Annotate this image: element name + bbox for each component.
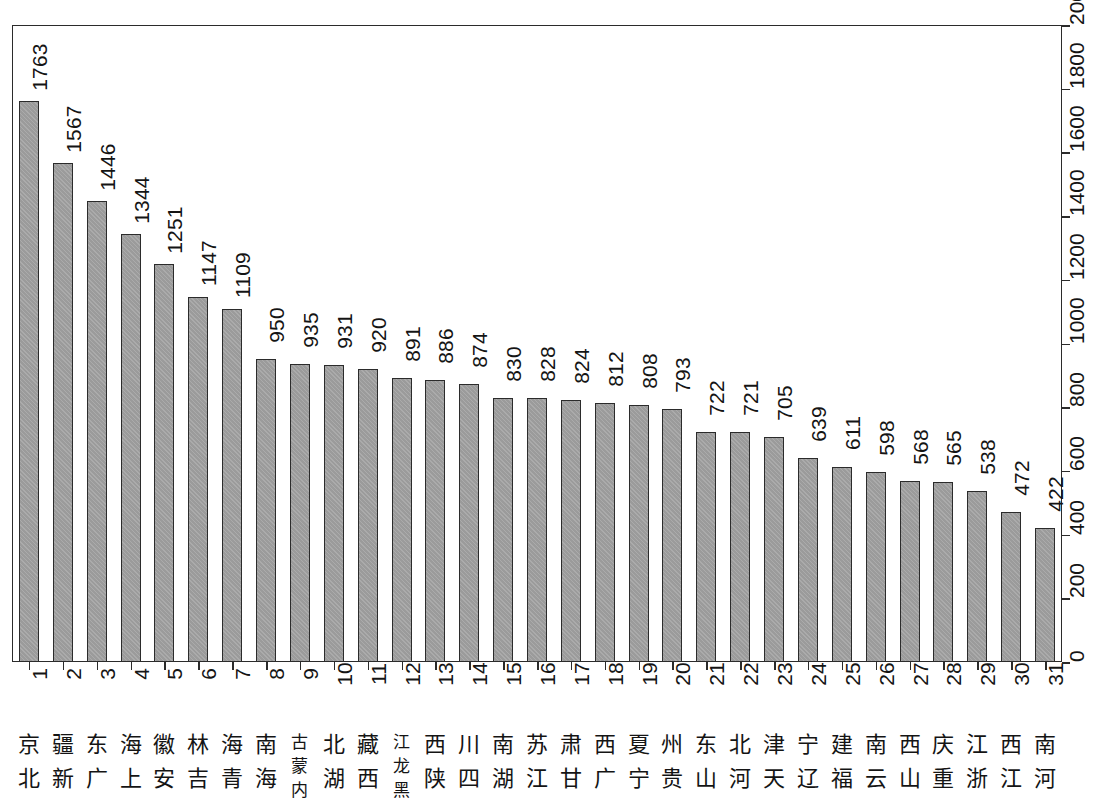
y-axis-tick (1062, 152, 1070, 154)
bar-slot[interactable]: 830 (486, 25, 520, 662)
bar-slot[interactable]: 1251 (147, 25, 181, 662)
x-axis-rank-label: 8 (266, 668, 287, 680)
bar[interactable] (121, 234, 141, 662)
x-axis-category-label: 津 (763, 734, 785, 756)
x-axis-rank-label: 15 (503, 662, 524, 685)
bar[interactable] (425, 380, 445, 662)
x-axis-category-label: 南 (492, 734, 514, 756)
bar[interactable] (900, 481, 920, 662)
x-axis-rank-label: 14 (469, 662, 490, 685)
bar[interactable] (933, 482, 953, 662)
bar-slot[interactable]: 1109 (215, 25, 249, 662)
bar[interactable] (527, 398, 547, 662)
bar[interactable] (866, 472, 886, 662)
bar-slot[interactable]: 1763 (12, 25, 46, 662)
bar-slot[interactable]: 705 (757, 25, 791, 662)
bar-slot[interactable]: 1446 (80, 25, 114, 662)
bar-slot[interactable]: 721 (723, 25, 757, 662)
x-axis-category-label: 江 (1000, 768, 1022, 790)
x-axis-rank-label: 4 (131, 668, 152, 680)
x-axis-rank-label: 22 (740, 662, 761, 685)
y-axis-tick (1062, 25, 1070, 27)
x-axis-rank-label: 29 (977, 662, 998, 685)
bar[interactable] (256, 359, 276, 662)
bar[interactable] (392, 378, 412, 662)
bar-slot[interactable]: 874 (452, 25, 486, 662)
bar-slot[interactable]: 891 (385, 25, 419, 662)
x-axis-category-label: 建 (831, 734, 853, 756)
x-axis-rank-label: 7 (232, 668, 253, 680)
bar[interactable] (19, 101, 39, 663)
bar-slot[interactable]: 1344 (114, 25, 148, 662)
x-axis-rank-label: 3 (97, 668, 118, 680)
x-axis-category-label: 海 (255, 768, 277, 790)
bar[interactable] (595, 403, 615, 662)
bar[interactable] (290, 364, 310, 662)
bar-slot[interactable]: 812 (588, 25, 622, 662)
x-axis-rank-label: 6 (198, 668, 219, 680)
x-axis-category-label: 四 (458, 768, 480, 790)
bar-slot[interactable]: 472 (994, 25, 1028, 662)
bar-slot[interactable]: 598 (859, 25, 893, 662)
bar[interactable] (324, 365, 344, 662)
bar-slot[interactable]: 793 (656, 25, 690, 662)
bar[interactable] (188, 297, 208, 662)
bar-slot[interactable]: 1147 (181, 25, 215, 662)
x-axis-category-label: 宁 (797, 734, 819, 756)
bar-slot[interactable]: 935 (283, 25, 317, 662)
x-axis-rank-label: 1 (29, 668, 50, 680)
x-axis-category-label: 藏 (357, 734, 379, 756)
bar[interactable] (967, 491, 987, 662)
bar-slot[interactable]: 538 (960, 25, 994, 662)
bar[interactable] (561, 400, 581, 662)
bar[interactable] (154, 264, 174, 662)
x-axis-category-label: 海 (221, 734, 243, 756)
bar[interactable] (222, 309, 242, 662)
bar[interactable] (459, 384, 479, 662)
bar[interactable] (730, 432, 750, 662)
bar-slot[interactable]: 950 (249, 25, 283, 662)
x-axis-category-label: 黑 (393, 782, 410, 799)
bar[interactable] (53, 163, 73, 662)
bar[interactable] (764, 437, 784, 662)
bar[interactable] (798, 458, 818, 662)
bar[interactable] (832, 467, 852, 662)
x-axis-category-label: 江 (966, 734, 988, 756)
bar[interactable] (1001, 512, 1021, 662)
bar-slot[interactable]: 568 (893, 25, 927, 662)
bar[interactable] (358, 369, 378, 662)
x-axis-category-label: 西 (357, 768, 379, 790)
x-axis-category-label: 云 (865, 768, 887, 790)
bar-slot[interactable]: 565 (927, 25, 961, 662)
x-axis-category-label: 西 (899, 734, 921, 756)
bar-slot[interactable]: 824 (554, 25, 588, 662)
bar-slot[interactable]: 828 (520, 25, 554, 662)
bar[interactable] (662, 409, 682, 662)
y-axis-tick-label: 200 (1066, 563, 1087, 598)
x-axis-category-label: 南 (255, 734, 277, 756)
x-axis-rank-label: 30 (1011, 662, 1032, 685)
x-axis-rank-label: 18 (605, 662, 626, 685)
x-axis-category-label: 川 (458, 734, 480, 756)
bar-slot[interactable]: 1567 (46, 25, 80, 662)
x-axis-rank-label: 28 (943, 662, 964, 685)
bar-slot[interactable]: 611 (825, 25, 859, 662)
bar[interactable] (696, 432, 716, 662)
x-axis-category-label: 东 (86, 734, 108, 756)
bar-slot[interactable]: 422 (1028, 25, 1062, 662)
x-axis-category-label: 东 (695, 734, 717, 756)
bar[interactable] (493, 398, 513, 662)
bar[interactable] (1035, 528, 1055, 662)
bar[interactable] (87, 201, 107, 662)
y-axis-tick-label: 0 (1066, 650, 1087, 662)
y-axis-tick (1062, 407, 1070, 409)
x-axis-category-label: 广 (86, 768, 108, 790)
bar-slot[interactable]: 886 (418, 25, 452, 662)
x-axis-category-label: 海 (120, 734, 142, 756)
bar-slot[interactable]: 931 (317, 25, 351, 662)
bar[interactable] (629, 405, 649, 662)
bar-slot[interactable]: 722 (689, 25, 723, 662)
bar-slot[interactable]: 808 (622, 25, 656, 662)
bar-slot[interactable]: 920 (351, 25, 385, 662)
bar-slot[interactable]: 639 (791, 25, 825, 662)
